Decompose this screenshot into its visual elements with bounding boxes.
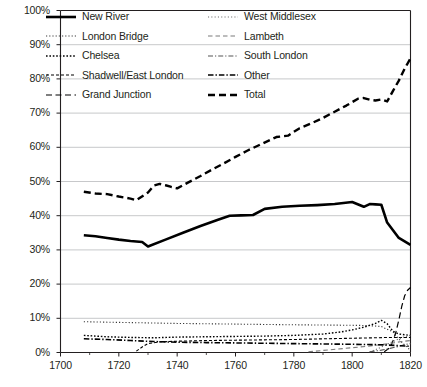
- series-line-total: [84, 58, 411, 200]
- y-axis-tick-label: 100%: [8, 5, 50, 16]
- y-axis-tick-label: 80%: [8, 73, 50, 84]
- x-axis-tick-label: 1720: [97, 360, 141, 371]
- y-axis-tick-label: 60%: [8, 141, 50, 152]
- x-axis-tick-label: 1780: [272, 360, 316, 371]
- series-line-new-river: [84, 202, 411, 246]
- series-line-other: [84, 339, 411, 347]
- y-axis-tick-label: 40%: [8, 210, 50, 221]
- y-axis-tick-label: 0%: [8, 347, 50, 358]
- x-axis-tick-label: 1740: [155, 360, 199, 371]
- y-axis-tick-label: 10%: [8, 312, 50, 323]
- x-axis-tick-label: 1760: [214, 360, 258, 371]
- y-axis-tick-label: 30%: [8, 244, 50, 255]
- y-axis-tick-label: 20%: [8, 278, 50, 289]
- x-axis-tick-label: 1800: [330, 360, 374, 371]
- y-axis-tick-label: 50%: [8, 176, 50, 187]
- x-tick-marks: [61, 353, 411, 357]
- series-line-lambeth: [308, 341, 410, 352]
- series-lines: [84, 58, 411, 351]
- series-line-grand-junction: [384, 288, 410, 352]
- gridlines: [61, 45, 411, 319]
- x-axis-tick-label: 1820: [389, 360, 427, 371]
- x-axis-tick-label: 1700: [39, 360, 83, 371]
- y-axis-tick-label: 70%: [8, 107, 50, 118]
- y-axis-tick-label: 90%: [8, 39, 50, 50]
